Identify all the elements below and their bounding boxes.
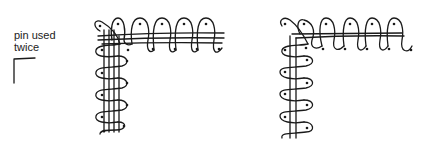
corner-diagrams (0, 0, 425, 156)
corner-marker-icon (14, 58, 35, 83)
left-corner-diagram (95, 18, 224, 134)
right-corner-diagram (280, 18, 412, 138)
